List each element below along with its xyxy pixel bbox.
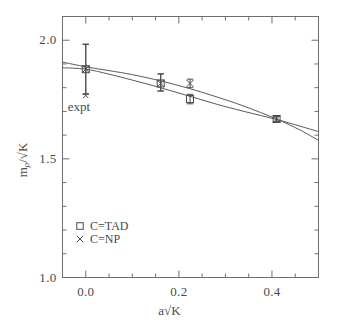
x-tick-label-0.2: 0.2: [154, 284, 204, 300]
legend-marker-cross: [77, 236, 84, 243]
y-axis-title-numerator: m: [15, 167, 30, 177]
y-tick-label-1.5: 1.5: [19, 151, 57, 167]
y-tick-label-1.0: 1.0: [19, 270, 57, 286]
legend-label-2: C=NP: [90, 232, 120, 247]
x-axis-title: a√K: [0, 303, 339, 319]
x-tick-label-0.4: 0.4: [247, 284, 297, 300]
x-tick-label-0.0: 0.0: [61, 284, 111, 300]
legend-marker-group: [77, 223, 84, 243]
error-bar-group: [83, 44, 280, 122]
legend-marker-square: [77, 223, 84, 230]
y-tick-label-2.0: 2.0: [19, 32, 57, 48]
expt-annotation-label: expt: [68, 99, 90, 115]
rho-mass-scaling-chart: mρ/√K a√K expt 1.01.52.00.00.20.4 C=TADC…: [0, 0, 339, 329]
